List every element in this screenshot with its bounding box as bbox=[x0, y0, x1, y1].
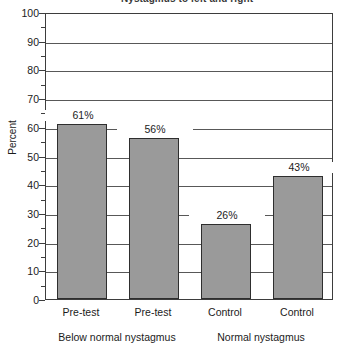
y-tick-label: 0 bbox=[5, 295, 39, 306]
y-tick-label: 30 bbox=[5, 209, 39, 220]
bar-value-label: 61% bbox=[45, 110, 121, 122]
y-tick-major bbox=[39, 300, 45, 301]
plot-area bbox=[45, 13, 333, 300]
y-tick-label: 10 bbox=[5, 266, 39, 277]
bar[interactable] bbox=[57, 124, 107, 299]
bar-value-label: 26% bbox=[189, 210, 265, 222]
bar-chart: Nystagmus to left and right Percent 0102… bbox=[0, 0, 344, 351]
x-tick-label: Pre-test bbox=[117, 306, 189, 318]
bar[interactable] bbox=[201, 224, 251, 299]
gridline bbox=[46, 100, 332, 101]
bar[interactable] bbox=[273, 176, 323, 299]
chart-title: Nystagmus to left and right bbox=[40, 0, 334, 4]
x-tick-label: Control bbox=[189, 306, 261, 318]
y-axis-title: Percent bbox=[7, 103, 18, 173]
bar[interactable] bbox=[129, 138, 179, 299]
y-tick-label: 70 bbox=[5, 94, 39, 105]
x-axis-group-label: Below normal nystagmus bbox=[45, 331, 189, 343]
x-axis-group-label: Normal nystagmus bbox=[189, 331, 333, 343]
y-tick-label: 90 bbox=[5, 37, 39, 48]
bar-value-label: 56% bbox=[117, 124, 193, 136]
bar-value-label: 43% bbox=[261, 162, 337, 174]
y-tick-label: 80 bbox=[5, 65, 39, 76]
y-tick-label: 40 bbox=[5, 180, 39, 191]
x-tick-label: Pre-test bbox=[45, 306, 117, 318]
y-tick-label: 60 bbox=[5, 123, 39, 134]
y-tick-label: 100 bbox=[5, 8, 39, 19]
gridline bbox=[46, 71, 332, 72]
y-tick-label: 50 bbox=[5, 152, 39, 163]
x-tick-label: Control bbox=[261, 306, 333, 318]
gridline bbox=[46, 43, 332, 44]
y-tick-label: 20 bbox=[5, 238, 39, 249]
